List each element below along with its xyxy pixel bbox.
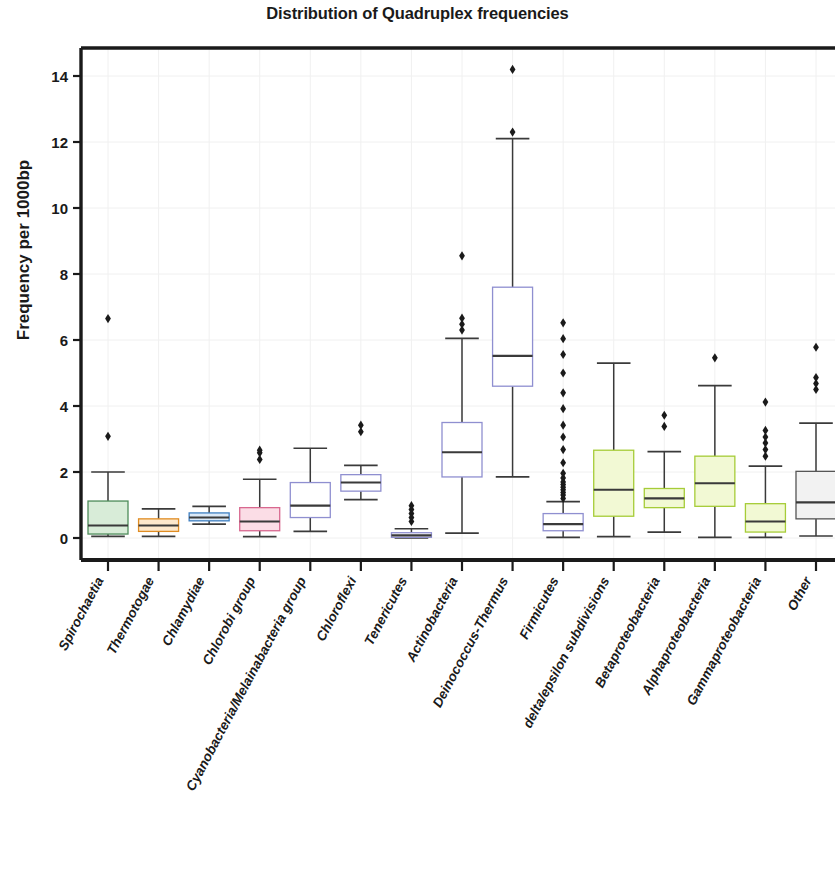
outlier-marker-8 <box>560 469 566 478</box>
x-tick-label-14: Other <box>784 574 814 613</box>
x-tick-label-0: Spirochaetia <box>55 574 107 653</box>
outlier-marker-0 <box>661 422 667 431</box>
outlier-marker-1 <box>105 314 111 323</box>
outlier-marker-3 <box>813 343 819 352</box>
boxplot-3 <box>240 446 280 537</box>
boxplot-6 <box>391 501 431 538</box>
box-body <box>442 423 482 477</box>
outlier-marker-1 <box>661 411 667 420</box>
x-tick-label-7: Actinobacteria <box>403 574 461 665</box>
y-ticks-group: 02468101214 <box>51 68 81 547</box>
box-body <box>493 287 533 386</box>
outlier-marker-4 <box>763 426 769 435</box>
outlier-marker-2 <box>459 314 465 323</box>
box-body <box>594 450 634 516</box>
y-tick-label: 2 <box>60 464 68 481</box>
x-ticks-group: SpirochaetiaThermotogaeChlamydiaeChlorob… <box>55 560 816 793</box>
boxplot-1 <box>139 509 179 536</box>
outlier-marker-5 <box>763 397 769 406</box>
outlier-marker-1 <box>510 65 516 74</box>
box-body <box>543 514 583 531</box>
boxplot-canvas: 02468101214 SpirochaetiaThermotogaeChlam… <box>0 0 835 880</box>
x-tick-label-5: Chloroflexi <box>313 574 359 644</box>
outlier-marker-12 <box>560 421 566 430</box>
y-tick-label: 6 <box>60 332 68 349</box>
y-tick-label: 10 <box>51 200 68 217</box>
boxplot-4 <box>290 448 330 531</box>
outlier-marker-0 <box>510 128 516 137</box>
outlier-marker-2 <box>813 373 819 382</box>
boxplot-10 <box>594 363 634 537</box>
outlier-marker-18 <box>560 318 566 327</box>
outlier-marker-9 <box>560 458 566 467</box>
box-body <box>290 483 330 518</box>
outlier-marker-1 <box>358 421 364 430</box>
x-tick-label-6: Tenericutes <box>361 574 410 648</box>
x-tick-label-10: delta/epsilon subdivisions <box>520 574 613 731</box>
box-body <box>695 456 735 506</box>
outlier-marker-15 <box>560 368 566 377</box>
x-tick-label-4: Cyanobacteria/Melainabacteria group <box>183 574 309 793</box>
y-tick-label: 8 <box>60 266 68 283</box>
box-body <box>88 501 128 534</box>
boxplot-9 <box>543 318 583 537</box>
box-body <box>240 508 280 531</box>
outlier-marker-13 <box>560 404 566 413</box>
box-body <box>745 504 785 532</box>
outlier-marker-14 <box>560 388 566 397</box>
outlier-marker-10 <box>560 445 566 454</box>
boxplot-11 <box>644 411 684 532</box>
y-tick-label: 0 <box>60 530 68 547</box>
outlier-marker-0 <box>105 432 111 441</box>
y-tick-label: 14 <box>51 68 68 85</box>
x-tick-label-1: Thermotogae <box>104 574 158 657</box>
x-tick-label-3: Chlorobi group <box>199 574 258 667</box>
outlier-marker-3 <box>459 251 465 260</box>
outlier-marker-17 <box>560 334 566 343</box>
box-body <box>796 471 835 519</box>
y-tick-label: 4 <box>60 398 69 415</box>
x-tick-label-2: Chlamydiae <box>159 574 208 648</box>
x-tick-label-9: Firmicutes <box>516 574 562 642</box>
chart-figure: Distribution of Quadruplex frequencies F… <box>0 0 835 880</box>
outlier-marker-11 <box>560 432 566 441</box>
outlier-marker-16 <box>560 350 566 359</box>
boxplot-2 <box>189 506 229 524</box>
y-tick-label: 12 <box>51 134 68 151</box>
outlier-marker-0 <box>712 353 718 362</box>
